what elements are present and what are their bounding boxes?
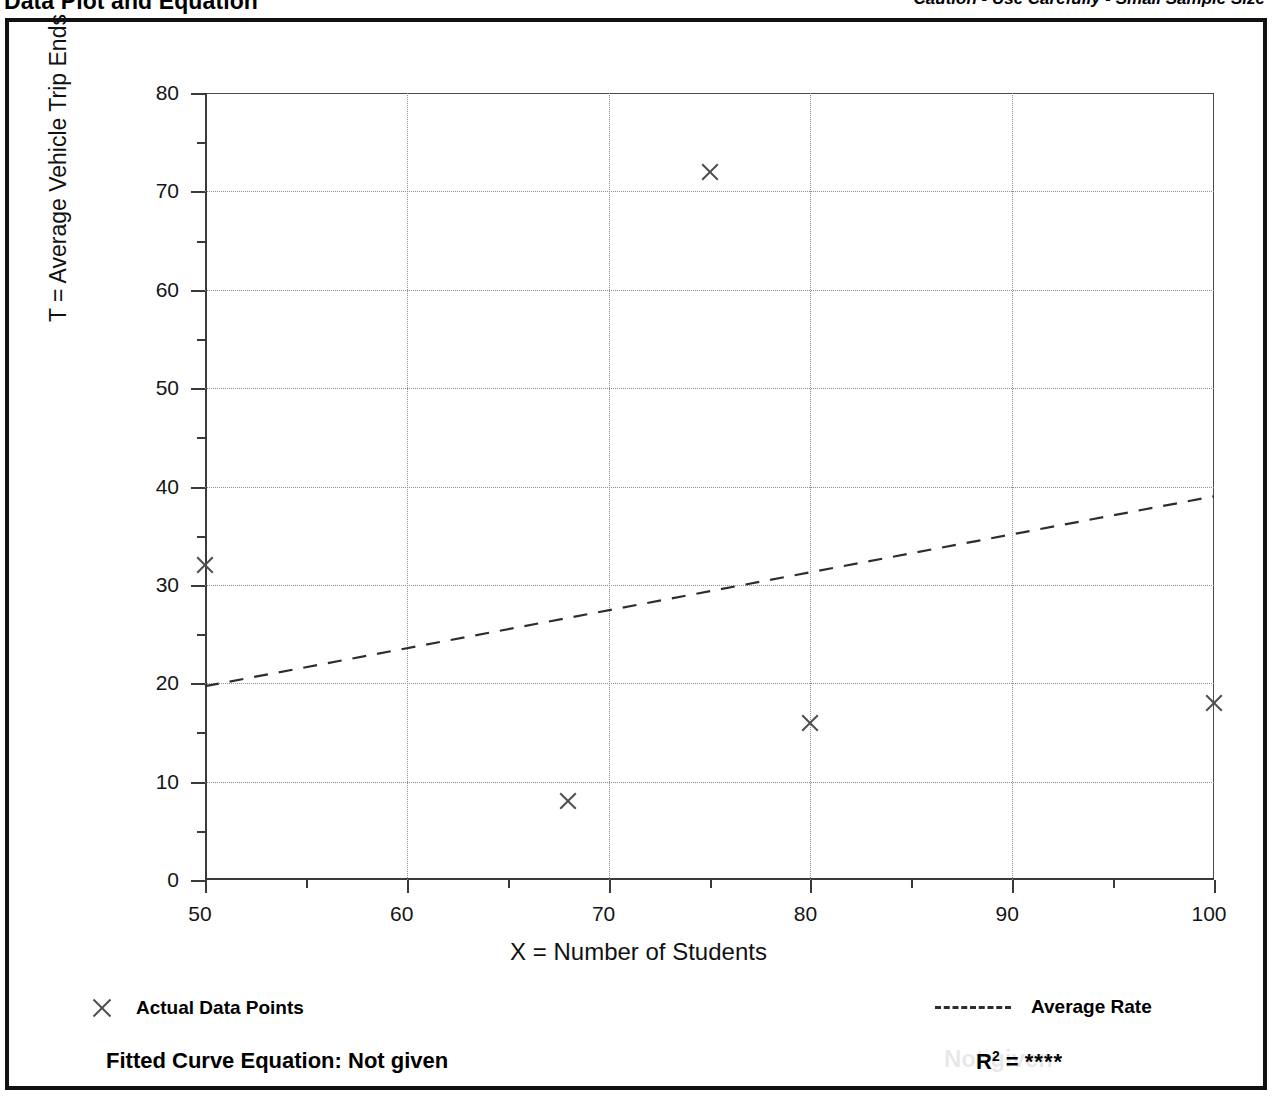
x-axis-title: X = Number of Students: [0, 938, 1277, 966]
y-tick-minor: [197, 831, 205, 833]
figure-frame: T = Average Vehicle Trip Ends 0102030405…: [5, 18, 1267, 1090]
y-tick-major: [191, 290, 205, 292]
x-tick-major: [1012, 880, 1014, 893]
page-header: Data Plot and Equation Caution - Use Car…: [0, 0, 1277, 18]
y-tick-major: [191, 191, 205, 193]
y-tick-major: [191, 487, 205, 489]
y-tick-major: [191, 683, 205, 685]
r-squared-equals: =: [1000, 1049, 1025, 1074]
y-tick-label: 20: [119, 671, 179, 695]
trendline-segment: [205, 496, 1214, 686]
y-tick-minor: [197, 142, 205, 144]
y-tick-minor: [197, 339, 205, 341]
x-tick-minor: [710, 880, 712, 888]
x-tick-label: 100: [1169, 902, 1249, 926]
y-tick-major: [191, 585, 205, 587]
r-squared-value: R2 = ****: [976, 1048, 1063, 1075]
y-tick-label: 0: [119, 868, 179, 892]
fitted-curve-equation: Fitted Curve Equation: Not given: [106, 1048, 448, 1074]
r-squared-exponent: 2: [992, 1048, 1000, 1064]
y-tick-major: [191, 782, 205, 784]
average-rate-trendline: [205, 93, 1214, 880]
y-tick-label: 50: [119, 376, 179, 400]
x-marker-icon: [90, 996, 114, 1020]
data-point-marker: [557, 790, 579, 812]
y-tick-minor: [197, 732, 205, 734]
r-squared-symbol: R: [976, 1049, 992, 1074]
x-tick-major: [205, 880, 207, 893]
x-tick-major: [1214, 880, 1216, 893]
x-tick-label: 80: [765, 902, 845, 926]
y-tick-label: 70: [119, 179, 179, 203]
legend-label-actual-data-points: Actual Data Points: [136, 997, 304, 1019]
y-tick-major: [191, 93, 205, 95]
y-tick-major: [191, 880, 205, 882]
x-tick-label: 50: [160, 902, 240, 926]
y-tick-minor: [197, 241, 205, 243]
y-tick-label: 30: [119, 573, 179, 597]
legend-average-rate: Average Rate: [935, 996, 1152, 1018]
x-tick-minor: [306, 880, 308, 888]
legend-label-average-rate: Average Rate: [1031, 996, 1152, 1018]
y-tick-label: 60: [119, 278, 179, 302]
x-tick-minor: [911, 880, 913, 888]
data-point-marker: [1203, 692, 1225, 714]
x-tick-label: 90: [967, 902, 1047, 926]
x-tick-label: 70: [564, 902, 644, 926]
y-tick-minor: [197, 536, 205, 538]
caution-note: Caution - Use Carefully - Small Sample S…: [914, 0, 1265, 9]
legend-actual-data-points: Actual Data Points: [90, 996, 304, 1020]
plot-area: [205, 93, 1214, 880]
data-point-marker: [194, 554, 216, 576]
y-tick-minor: [197, 634, 205, 636]
x-tick-minor: [1113, 880, 1115, 888]
y-tick-label: 40: [119, 475, 179, 499]
y-axis-title: T = Average Vehicle Trip Ends: [45, 0, 72, 322]
dashed-line-icon: [935, 1006, 1011, 1009]
x-tick-major: [407, 880, 409, 893]
r-squared-stars: ****: [1025, 1049, 1063, 1074]
y-tick-minor: [197, 437, 205, 439]
x-tick-major: [609, 880, 611, 893]
data-point-marker: [699, 161, 721, 183]
data-point-marker: [799, 712, 821, 734]
y-tick-label: 80: [119, 81, 179, 105]
x-tick-major: [810, 880, 812, 893]
x-tick-label: 60: [362, 902, 442, 926]
page-title: Data Plot and Equation: [4, 0, 258, 15]
y-tick-major: [191, 388, 205, 390]
x-tick-minor: [508, 880, 510, 888]
y-tick-label: 10: [119, 770, 179, 794]
